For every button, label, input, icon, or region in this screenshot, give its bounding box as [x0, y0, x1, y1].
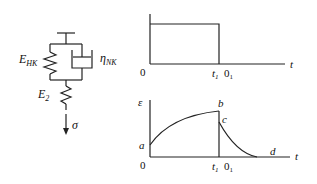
svg-text:01: 01: [224, 67, 234, 81]
svg-text:a: a: [139, 139, 145, 151]
arrow-down-icon: [63, 128, 69, 135]
svg-text:c: c: [222, 113, 227, 125]
label-ehk: EHK: [18, 52, 38, 68]
label-sigma: σ: [72, 118, 79, 132]
svg-text:0: 0: [140, 66, 146, 78]
svg-text:b: b: [218, 97, 224, 109]
rheological-diagram: EHK ηNK E2 σ 0 t1 01 t ε a b c d t 0 t1 …: [0, 0, 317, 184]
stress-step-line: [150, 24, 219, 64]
svg-text:t1: t1: [212, 160, 219, 174]
label-eta-nk: ηNK: [100, 51, 117, 67]
spring-ehk-icon: [44, 52, 56, 74]
svg-text:ε: ε: [138, 96, 143, 108]
recovery-curve: [219, 122, 257, 157]
spring-e2-icon: [61, 86, 71, 104]
svg-text:t: t: [295, 150, 299, 162]
stress-history-chart: 0 t1 01 t: [140, 14, 294, 81]
creep-curve: [150, 111, 219, 145]
strain-response-chart: ε a b c d t 0 t1 01: [138, 96, 299, 174]
label-e2: E2: [37, 87, 49, 103]
svg-text:01: 01: [224, 160, 234, 174]
svg-text:t1: t1: [212, 67, 219, 81]
svg-text:0: 0: [140, 159, 146, 171]
svg-text:d: d: [270, 145, 276, 157]
svg-text:t: t: [290, 58, 294, 70]
mechanical-model: EHK ηNK E2 σ: [18, 33, 117, 135]
